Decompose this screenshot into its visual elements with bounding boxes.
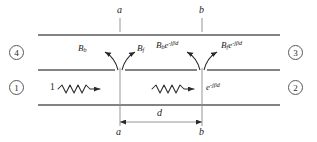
transmitted-wave-arrow xyxy=(152,85,194,93)
port-region-3: 3 xyxy=(288,45,303,60)
diagram-canvas xyxy=(0,0,317,142)
amplitude-label-Bb-at-a: Bb xyxy=(78,44,87,53)
transmitted-sup: -jβd xyxy=(210,82,220,88)
port-region-2: 2 xyxy=(288,80,303,95)
incident-wave-label: 1 xyxy=(50,83,55,93)
plane-label-a-top: a xyxy=(117,5,122,15)
separation-label-d: d xyxy=(157,108,162,118)
transmitted-wave-label: e-jβd xyxy=(206,82,220,92)
plane-label-b-top: b xyxy=(199,5,204,15)
amplitude-label-Bf-exp-at-b: Bfe-jβd xyxy=(221,40,242,50)
amp-Bb-sub: b xyxy=(84,47,87,53)
coupling-arrows-plane-a xyxy=(105,52,135,70)
waveguide-coupling-diagram: a b a b 4 1 3 2 Bb Bf Bbe-jβd Bfe-jβd 1 … xyxy=(0,0,317,142)
amplitude-label-Bb-exp-at-b: Bbe-jβd xyxy=(156,40,178,50)
amp-Bf-exp-sup: -jβd xyxy=(232,40,242,46)
backward-arrow-a xyxy=(105,52,118,70)
amplitude-label-Bf-at-a: Bf xyxy=(137,44,144,53)
plane-label-a-bottom: a xyxy=(116,127,121,137)
forward-arrow-a xyxy=(122,52,135,70)
forward-arrow-b xyxy=(204,52,217,70)
amp-Bf-sub: f xyxy=(143,47,145,53)
amp-Bb-exp-sup: -jβd xyxy=(169,40,179,46)
coupling-arrows-plane-b xyxy=(187,52,217,70)
plane-label-b-bottom: b xyxy=(199,127,204,137)
port-region-4: 4 xyxy=(9,45,24,60)
backward-arrow-b xyxy=(187,52,200,70)
port-region-1: 1 xyxy=(9,80,24,95)
incident-wave-arrow xyxy=(58,85,100,93)
